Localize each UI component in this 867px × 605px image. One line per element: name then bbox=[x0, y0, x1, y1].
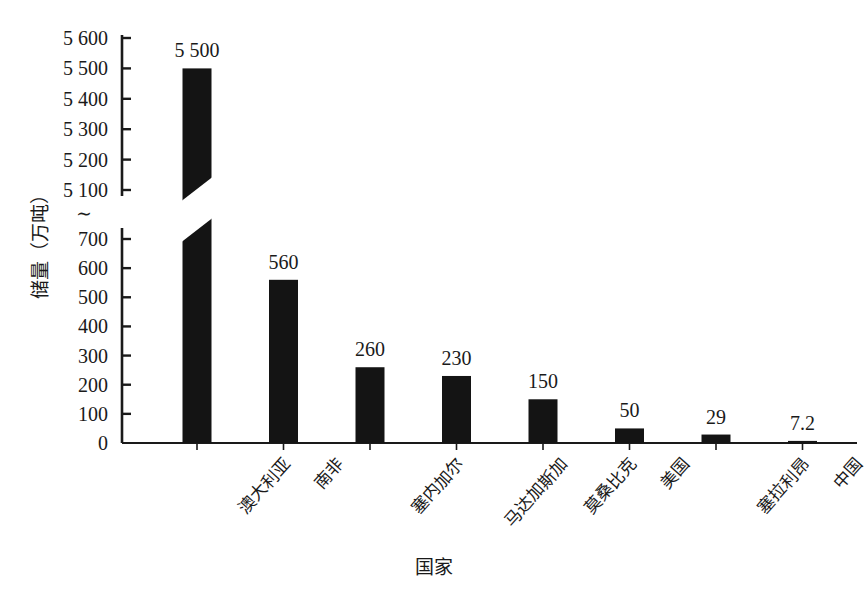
bar-value-label: 50 bbox=[585, 400, 675, 420]
bar bbox=[702, 435, 731, 443]
bar-value-label: 29 bbox=[671, 407, 761, 427]
axis-lines bbox=[122, 35, 857, 443]
bar-value-label: 230 bbox=[412, 348, 502, 368]
bar bbox=[442, 376, 471, 443]
bar bbox=[529, 399, 558, 443]
bar bbox=[183, 68, 212, 443]
plot-area bbox=[0, 0, 867, 605]
bar bbox=[788, 441, 817, 444]
bar-value-label: 560 bbox=[239, 252, 329, 272]
bar-value-label: 260 bbox=[325, 339, 415, 359]
bar-chart: 储量（万吨） 5 1005 2005 3005 4005 5005 600010… bbox=[0, 0, 867, 605]
bar bbox=[269, 280, 298, 443]
bar-value-label: 150 bbox=[498, 371, 588, 391]
bar bbox=[615, 428, 644, 443]
x-axis-title: 国家 bbox=[415, 552, 453, 579]
bar-value-label: 5 500 bbox=[152, 40, 242, 60]
bar-value-label: 7.2 bbox=[758, 413, 848, 433]
bar bbox=[356, 367, 385, 443]
